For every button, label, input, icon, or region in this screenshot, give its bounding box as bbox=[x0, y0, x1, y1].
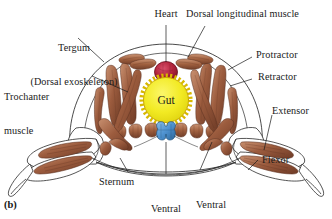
leader-protractor bbox=[228, 57, 252, 70]
figure-stage: Gut bbox=[0, 0, 332, 219]
vlm-block-4 bbox=[174, 123, 187, 137]
label-sternum: Sternum bbox=[99, 176, 134, 187]
label-trochanter-line2: muscle bbox=[4, 125, 90, 136]
vlm-block-2 bbox=[129, 124, 142, 138]
label-protractor: Protractor bbox=[256, 49, 298, 60]
label-ventral-nerve-cord: Ventral nerve cord bbox=[140, 180, 192, 219]
gut-label: Gut bbox=[157, 94, 175, 106]
label-retractor: Retractor bbox=[258, 71, 297, 82]
label-ventral-longitudinal-muscle: Ventral longitudinal muscle bbox=[196, 176, 266, 219]
label-trochanter-line1: Trochanter bbox=[4, 91, 90, 102]
label-extensor: Extensor bbox=[272, 105, 309, 116]
label-flexor: Flexor bbox=[262, 154, 289, 165]
label-trochanter-muscle: Trochanter muscle bbox=[4, 68, 90, 159]
label-dorsal-longitudinal-muscle: Dorsal longitudinal muscle bbox=[186, 8, 332, 19]
label-vnc-line1: Ventral bbox=[140, 203, 192, 214]
vlm-block-5 bbox=[190, 124, 203, 138]
panel-label: (b) bbox=[4, 199, 17, 210]
vlm-block-3 bbox=[145, 123, 158, 137]
label-vlm-line1: Ventral bbox=[196, 199, 266, 210]
label-tergum-line1: Tergum bbox=[10, 42, 138, 53]
